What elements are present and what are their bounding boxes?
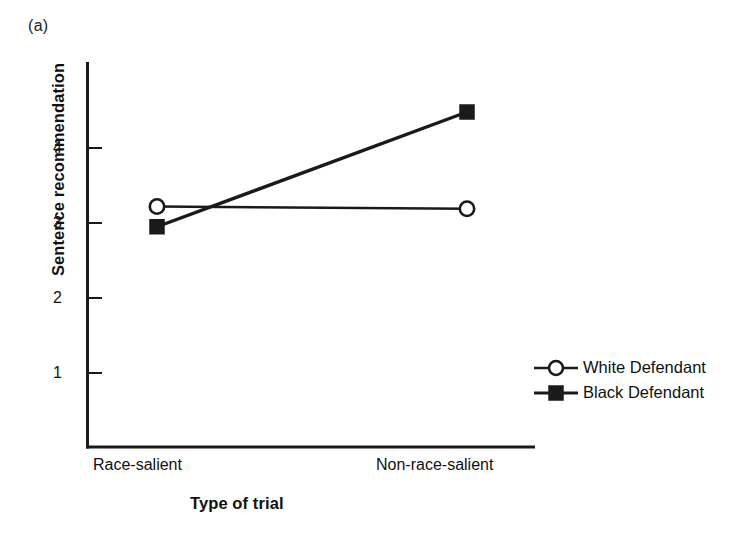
open-circle-marker-icon [533, 358, 579, 378]
data-point-white-defendant-race-salient [150, 199, 164, 213]
plot-area [0, 0, 755, 540]
legend-label-black-defendant: Black Defendant [583, 383, 704, 402]
legend-item-black-defendant: Black Defendant [533, 380, 706, 405]
data-point-black-defendant-race-salient [150, 220, 164, 234]
data-point-white-defendant-non-race-salient [460, 202, 474, 216]
legend: White Defendant Black Defendant [533, 355, 706, 405]
data-point-black-defendant-non-race-salient [460, 105, 474, 119]
legend-item-white-defendant: White Defendant [533, 355, 706, 380]
figure-panel: (a) Sentence recommendation Type of tria… [0, 0, 755, 540]
legend-label-white-defendant: White Defendant [583, 358, 706, 377]
filled-square-marker-icon [533, 383, 579, 403]
